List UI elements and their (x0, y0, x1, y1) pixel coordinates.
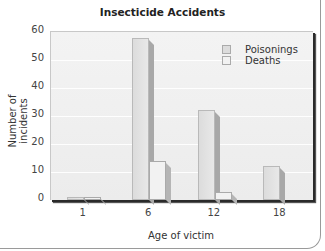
bar-poisonings-age-6 (132, 38, 149, 200)
x-axis-label: Age of victim (50, 230, 312, 241)
bar-face (263, 166, 280, 200)
bar-face (132, 38, 149, 200)
bar-deaths-age-1 (84, 197, 101, 200)
x-tick-label: 6 (133, 207, 163, 218)
y-tick-label: 60 (18, 24, 44, 35)
legend-swatch-poisonings (222, 45, 231, 54)
bar-side (280, 168, 285, 205)
bar-deaths-age-12 (215, 192, 232, 200)
legend-item-deaths: Deaths (222, 55, 298, 66)
bar-side (166, 163, 171, 205)
y-tick-label: 40 (18, 80, 44, 91)
legend-label-deaths: Deaths (245, 55, 280, 66)
gridline (51, 88, 313, 89)
legend-label-poisonings: Poisonings (245, 44, 298, 55)
gridline (51, 144, 313, 145)
legend-item-poisonings: Poisonings (222, 44, 298, 55)
legend-swatch-deaths (222, 56, 231, 65)
x-tick-label: 12 (199, 207, 229, 218)
gridline (51, 116, 313, 117)
chart-title: Insecticide Accidents (0, 6, 325, 18)
y-tick-label: 10 (18, 164, 44, 175)
bar-face (215, 192, 232, 200)
y-tick-label: 20 (18, 136, 44, 147)
bar-face (198, 110, 215, 200)
x-tick-label: 1 (68, 207, 98, 218)
bar-poisonings-age-12 (198, 110, 215, 200)
x-tick-label: 18 (264, 207, 294, 218)
bar-face (67, 197, 84, 200)
bar-poisonings-age-1 (67, 197, 84, 200)
legend: Poisonings Deaths (222, 44, 298, 66)
y-tick-label: 30 (18, 108, 44, 119)
y-tick-label: 50 (18, 52, 44, 63)
bar-face (84, 197, 101, 200)
bar-deaths-age-6 (149, 161, 166, 200)
bar-face (149, 161, 166, 200)
bar-poisonings-age-18 (263, 166, 280, 200)
y-tick-label: 0 (18, 192, 44, 203)
